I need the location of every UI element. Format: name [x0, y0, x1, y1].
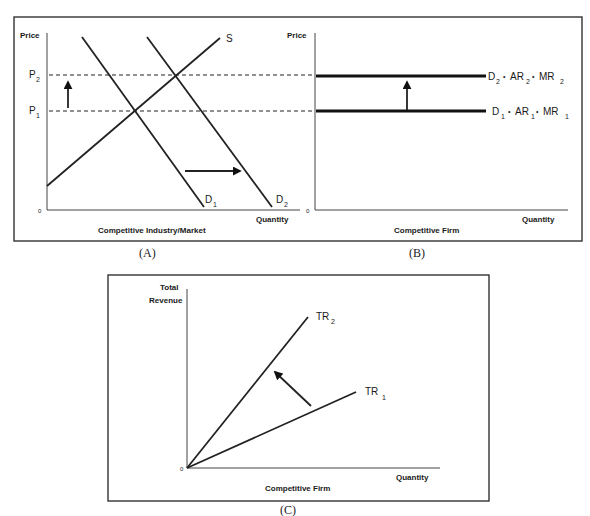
svg-text:2: 2: [284, 201, 288, 208]
panel-a-x-label: Quantity: [256, 215, 289, 224]
panel-a-title: Competitive Industry/Market: [98, 226, 206, 235]
caption-b: (B): [409, 246, 425, 260]
panel-b: Price 0 Quantity Competitive Firm D 2 • …: [287, 31, 569, 235]
svg-text:TR: TR: [316, 311, 329, 322]
svg-text:D: D: [492, 106, 499, 117]
svg-text:AR: AR: [515, 106, 529, 117]
d1-ar1-mr1-label: D 1 • AR 1 • MR 1: [492, 106, 569, 120]
svg-text:1: 1: [36, 112, 40, 119]
p2-label: P 2: [29, 69, 40, 83]
svg-text:1: 1: [501, 113, 505, 120]
panels-ab-frame: [14, 17, 582, 241]
svg-text:2: 2: [526, 78, 530, 85]
svg-text:MR: MR: [539, 71, 555, 82]
svg-text:D: D: [488, 71, 495, 82]
svg-text:2: 2: [36, 76, 40, 83]
svg-text:1: 1: [531, 113, 535, 120]
demand-curve-d2: [147, 37, 272, 207]
panel-c-y-label-line1: Total: [160, 283, 179, 292]
tr1-label: TR 1: [365, 386, 386, 401]
svg-text:•: •: [503, 73, 506, 80]
panel-b-y-label: Price: [287, 31, 307, 40]
svg-text:P: P: [29, 69, 36, 80]
economics-figure: Price 0 Quantity Competitive Industry/Ma…: [0, 0, 590, 516]
panel-c-origin: 0: [180, 466, 184, 472]
svg-text:2: 2: [331, 318, 335, 325]
d1-label: D 1: [205, 194, 217, 208]
svg-text:P: P: [29, 105, 36, 116]
panel-c-frame: [108, 275, 489, 501]
demand-curve-d1: [82, 37, 204, 207]
panel-c-y-label-line2: Revenue: [149, 296, 183, 305]
tr1-curve: [187, 392, 356, 468]
svg-text:•: •: [508, 108, 511, 115]
svg-text:•: •: [536, 108, 539, 115]
panel-b-x-label: Quantity: [522, 215, 555, 224]
d2-label: D 2: [276, 194, 288, 208]
svg-text:•: •: [532, 73, 535, 80]
supply-label: S: [226, 33, 233, 44]
panel-a-y-label: Price: [20, 31, 40, 40]
tr2-label: TR 2: [316, 311, 335, 325]
svg-text:2: 2: [560, 78, 564, 85]
svg-text:1: 1: [382, 394, 386, 401]
svg-text:AR: AR: [510, 71, 524, 82]
panel-b-origin: 0: [306, 208, 310, 214]
panel-a-origin: 0: [38, 208, 42, 214]
svg-text:D: D: [205, 194, 212, 205]
svg-text:TR: TR: [365, 386, 378, 397]
panel-c-title: Competitive Firm: [265, 484, 330, 493]
panel-b-title: Competitive Firm: [394, 226, 459, 235]
caption-a: (A): [139, 246, 156, 260]
svg-text:1: 1: [565, 113, 569, 120]
supply-curve: [47, 38, 220, 186]
svg-text:MR: MR: [543, 106, 559, 117]
panel-a: Price 0 Quantity Competitive Industry/Ma…: [20, 31, 314, 235]
svg-text:1: 1: [213, 201, 217, 208]
caption-c: (C): [280, 503, 296, 516]
tr-rotation-arrow-icon: [275, 372, 311, 406]
d2-ar2-mr2-label: D 2 • AR 2 • MR 2: [488, 71, 564, 85]
svg-text:2: 2: [496, 78, 500, 85]
panel-c: Total Revenue 0 Quantity Competitive Fir…: [149, 283, 440, 493]
tr2-curve: [187, 317, 308, 468]
panel-c-x-label: Quantity: [396, 473, 429, 482]
svg-text:D: D: [276, 194, 283, 205]
p1-label: P 1: [29, 105, 40, 119]
